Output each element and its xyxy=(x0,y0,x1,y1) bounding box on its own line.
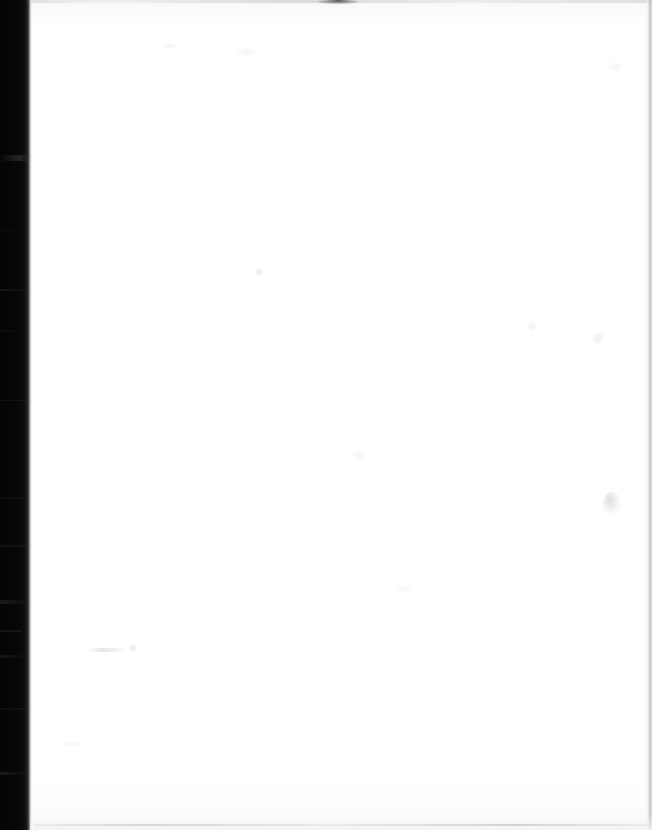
gutter-streak xyxy=(0,708,26,710)
top-edge-smudge xyxy=(318,0,358,4)
gutter-streak xyxy=(0,330,24,332)
gutter-streak xyxy=(0,630,22,632)
gutter-streak xyxy=(0,289,26,291)
gutter-streak xyxy=(0,497,24,499)
scanned-page-viewport xyxy=(0,0,652,830)
right-edge-line xyxy=(645,0,652,830)
page-text-content xyxy=(60,40,600,780)
gutter-streak xyxy=(0,655,25,658)
left-gutter-shadow xyxy=(0,0,33,830)
gutter-streak xyxy=(0,400,27,401)
gutter-streak xyxy=(0,600,27,604)
gutter-streak xyxy=(0,772,27,775)
gutter-streak xyxy=(0,545,26,547)
gutter-streak xyxy=(0,155,28,161)
bottom-edge-line xyxy=(34,824,652,826)
bottom-edge-haze xyxy=(30,814,652,830)
gutter-streak xyxy=(0,230,20,231)
